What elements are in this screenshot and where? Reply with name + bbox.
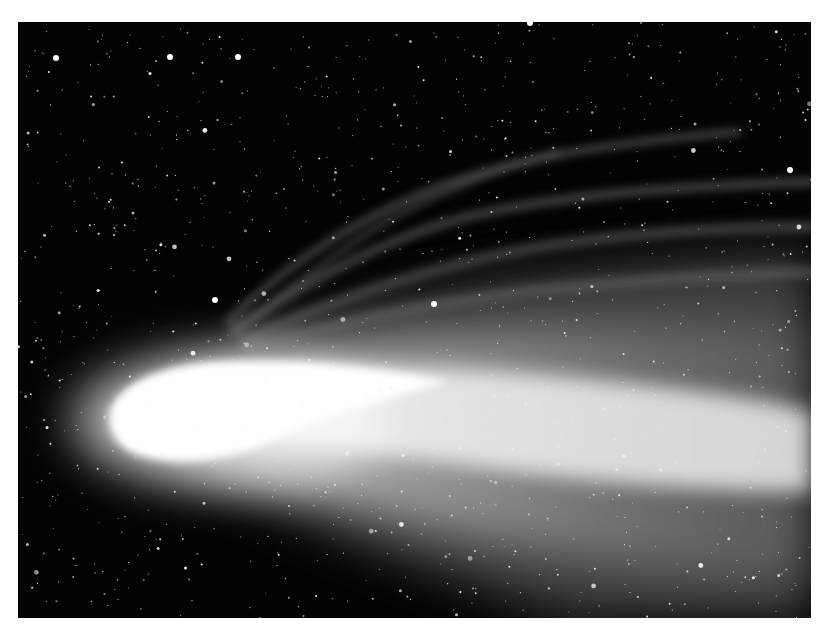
star	[432, 467, 433, 468]
star	[663, 362, 664, 363]
star	[491, 149, 492, 150]
star	[724, 251, 725, 252]
star	[28, 71, 29, 72]
star	[390, 386, 393, 389]
star	[712, 201, 713, 202]
star	[58, 311, 61, 314]
star	[34, 256, 36, 258]
star	[333, 538, 334, 539]
star	[272, 496, 273, 497]
star	[650, 77, 652, 79]
star	[383, 87, 384, 88]
star	[419, 438, 420, 439]
star	[664, 304, 665, 305]
star	[650, 103, 651, 104]
star	[698, 228, 699, 229]
star	[239, 117, 240, 118]
star	[201, 245, 202, 246]
star	[55, 500, 56, 501]
star	[276, 565, 277, 566]
star	[58, 549, 60, 551]
star	[754, 450, 755, 451]
star	[43, 419, 45, 421]
star	[632, 44, 633, 45]
star	[622, 455, 625, 458]
star	[379, 508, 380, 509]
star	[547, 518, 548, 519]
star	[65, 154, 66, 155]
star	[475, 407, 476, 408]
star	[595, 482, 596, 483]
star	[125, 174, 126, 175]
star	[375, 530, 377, 532]
star	[243, 191, 245, 193]
star	[506, 396, 508, 398]
star	[401, 491, 403, 493]
star	[677, 564, 678, 565]
star	[669, 603, 671, 605]
star	[483, 138, 484, 139]
star	[589, 61, 590, 62]
star	[278, 554, 280, 556]
star	[106, 53, 107, 54]
star	[440, 261, 441, 262]
star	[302, 405, 304, 407]
star	[576, 148, 577, 149]
star	[674, 156, 675, 157]
star	[755, 93, 757, 95]
star	[759, 98, 760, 99]
star	[492, 546, 493, 547]
star	[43, 53, 44, 54]
star	[579, 288, 580, 289]
star	[255, 175, 257, 177]
star	[418, 145, 419, 146]
star	[545, 131, 547, 133]
star	[74, 336, 75, 337]
star	[785, 430, 787, 432]
star	[763, 405, 764, 406]
star	[767, 236, 768, 237]
star	[244, 456, 245, 457]
star	[794, 310, 796, 312]
star	[444, 430, 446, 432]
star	[70, 186, 71, 187]
star	[780, 137, 781, 138]
star	[60, 292, 61, 293]
star	[43, 553, 45, 555]
star	[502, 539, 503, 540]
star	[772, 324, 773, 325]
star	[590, 337, 591, 338]
star	[654, 394, 656, 396]
star	[555, 506, 556, 507]
star	[22, 497, 23, 498]
star	[76, 464, 78, 466]
star	[712, 406, 713, 407]
star	[155, 291, 157, 293]
star	[790, 253, 792, 255]
star	[777, 426, 779, 428]
star	[135, 457, 136, 458]
star	[531, 320, 532, 321]
star	[462, 140, 463, 141]
star	[155, 60, 157, 62]
star	[227, 256, 232, 261]
star	[35, 340, 37, 342]
star	[530, 546, 531, 547]
star	[256, 325, 257, 326]
star	[495, 505, 496, 506]
star	[548, 386, 549, 387]
star	[583, 231, 584, 232]
star	[307, 66, 308, 67]
star	[111, 174, 112, 175]
star	[245, 377, 246, 378]
star	[778, 225, 779, 226]
star	[380, 518, 382, 520]
star	[327, 486, 328, 487]
star	[409, 40, 412, 43]
star	[749, 120, 751, 122]
star	[41, 480, 42, 481]
star	[267, 536, 268, 537]
star	[131, 385, 132, 386]
star	[113, 227, 115, 229]
star	[93, 337, 94, 338]
